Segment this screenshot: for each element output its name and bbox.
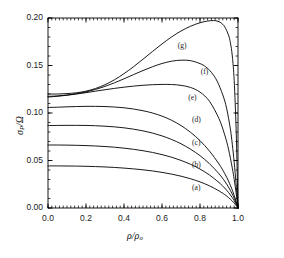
curve-e [48, 84, 238, 208]
y-axis-label: σP/Ω [14, 116, 25, 135]
x-tick-label: 1.0 [222, 213, 254, 223]
x-axis-label-text: ρ/ρo [127, 230, 143, 241]
curve-d [48, 106, 238, 208]
y-tick-label: 0.15 [5, 60, 43, 70]
y-tick-label: 0.05 [5, 155, 43, 165]
curve-a [48, 166, 238, 208]
x-tick-label: 0.2 [70, 213, 102, 223]
curve-b [48, 145, 238, 208]
curve-label-g: (g) [178, 41, 187, 50]
plot-frame [48, 18, 238, 208]
figure-panel: 0.000.050.100.150.20 0.00.20.40.60.81.0 … [0, 0, 284, 258]
axis-ticks [48, 18, 238, 208]
x-tick-label: 0.8 [184, 213, 216, 223]
curve-label-c: (c) [192, 138, 200, 147]
curve-label-e: (e) [188, 93, 196, 102]
curve-label-f: (f) [201, 67, 209, 76]
x-tick-label: 0.0 [32, 213, 64, 223]
curve-label-a: (a) [192, 183, 200, 192]
x-tick-label: 0.4 [108, 213, 140, 223]
curve-c [48, 125, 238, 208]
x-tick-label: 0.6 [146, 213, 178, 223]
y-tick-label: 0.00 [5, 202, 43, 212]
curve-g [48, 21, 238, 208]
y-tick-label: 0.20 [5, 12, 43, 22]
curve-label-d: (d) [192, 115, 201, 124]
curve-label-b: (b) [192, 160, 201, 169]
data-curves [48, 21, 238, 208]
x-axis-label: ρ/ρo [127, 230, 143, 241]
y-axis-label-text: σP/Ω [14, 116, 25, 135]
